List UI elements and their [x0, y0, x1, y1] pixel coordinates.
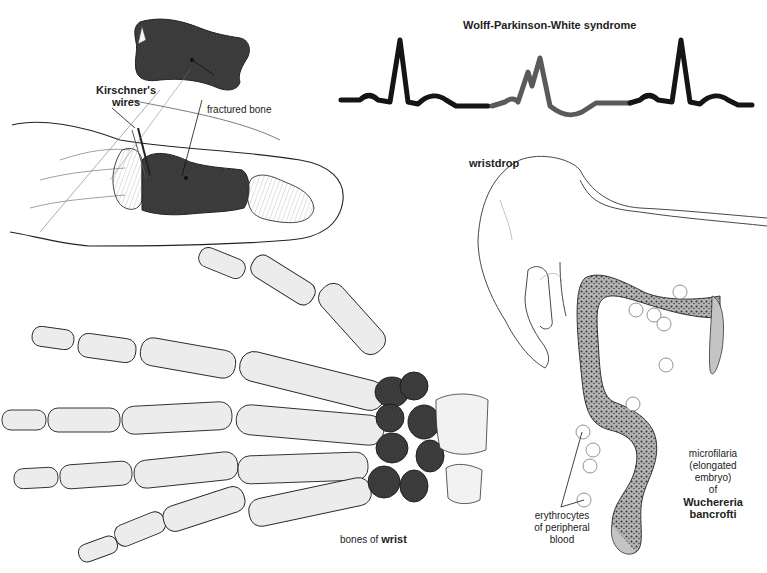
- kirschner-wires-label-line2: wires: [96, 96, 156, 108]
- fractured-bone-detail: [135, 19, 250, 90]
- bones-of-wrist-label-term: wrist: [381, 533, 407, 545]
- ecg-title: Wolff-Parkinson-White syndrome: [463, 19, 636, 31]
- ecg-trace: [341, 40, 752, 115]
- erythrocytes-label-line3: blood: [523, 534, 601, 546]
- erythrocytes-label-line1: erythrocytes: [523, 510, 601, 522]
- fractured-bone-label: fractured bone: [207, 104, 272, 116]
- kirschner-wires-label: Kirschner's wires: [96, 84, 156, 108]
- kirschner-wires-label-line1: Kirschner's: [96, 84, 156, 96]
- microfilaria-label-line4: of: [668, 484, 758, 496]
- species-label-line1: Wuchereria: [668, 496, 758, 508]
- microfilaria-label-line3: embryo): [668, 472, 758, 484]
- medical-illustration-plate: Kirschner's wires fractured bone Wolff-P…: [0, 0, 767, 573]
- erythrocytes-label: erythrocytes of peripheral blood: [523, 510, 601, 546]
- species-label-line2: bancrofti: [668, 508, 758, 520]
- hand-skeleton: [2, 245, 488, 565]
- finger-with-kirschner-wires: [10, 60, 343, 246]
- bones-of-wrist-label: bones of wrist: [340, 533, 407, 546]
- wristdrop-label: wristdrop: [469, 157, 519, 169]
- microfilaria-label-line1: microfilaria: [668, 448, 758, 460]
- microfilaria-label-line2: (elongated: [668, 460, 758, 472]
- microfilaria-label: microfilaria (elongated embryo) of Wuche…: [668, 448, 758, 520]
- bones-of-wrist-label-prefix: bones of: [340, 534, 378, 545]
- erythrocytes-label-line2: of peripheral: [523, 522, 601, 534]
